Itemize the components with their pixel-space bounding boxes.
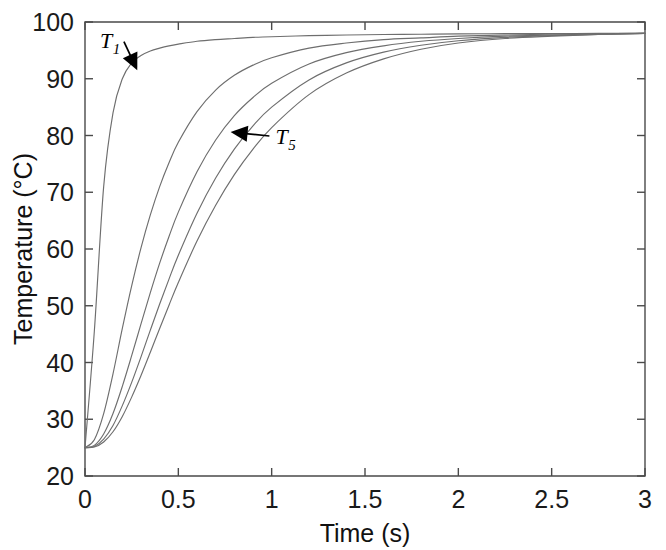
y-tick-label: 100 <box>32 8 74 36</box>
x-tick-label: 1 <box>265 485 279 513</box>
x-axis-title: Time (s) <box>320 519 411 547</box>
y-tick-label: 30 <box>46 405 74 433</box>
x-axis-tick-labels: 00.511.522.53 <box>78 485 652 513</box>
y-tick-label: 40 <box>46 349 74 377</box>
x-tick-label: 2.5 <box>534 485 569 513</box>
y-axis-title: Temperature (°C) <box>9 153 37 345</box>
x-tick-label: 0.5 <box>161 485 196 513</box>
y-tick-label: 90 <box>46 65 74 93</box>
x-tick-label: 3 <box>638 485 652 513</box>
y-tick-label: 80 <box>46 122 74 150</box>
x-tick-label: 2 <box>451 485 465 513</box>
y-tick-label: 20 <box>46 462 74 490</box>
y-axis-tick-labels: 2030405060708090100 <box>32 8 74 490</box>
temperature-vs-time-line-chart: 00.511.522.53 2030405060708090100 T1T5 T… <box>0 0 666 550</box>
plot-area-background <box>85 22 645 476</box>
y-tick-label: 50 <box>46 292 74 320</box>
y-tick-label: 70 <box>46 178 74 206</box>
y-tick-label: 60 <box>46 235 74 263</box>
x-tick-label: 0 <box>78 485 92 513</box>
x-tick-label: 1.5 <box>348 485 383 513</box>
figure-container: 00.511.522.53 2030405060708090100 T1T5 T… <box>0 0 666 550</box>
